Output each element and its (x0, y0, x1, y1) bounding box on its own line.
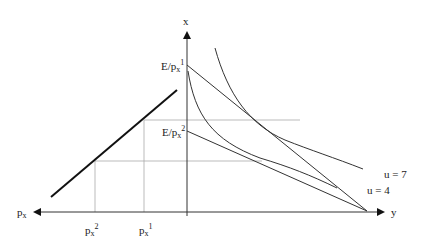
budget-lines (187, 65, 367, 211)
intercept-label-e2: E/px2 (162, 124, 185, 140)
demand-curve (51, 90, 177, 197)
axes (40, 38, 378, 216)
price-axis-label: px (17, 206, 27, 220)
indifference-label-u4: u = 4 (367, 184, 390, 196)
indifference-label-u7: u = 7 (384, 168, 407, 180)
price-tick-p2: px2 (85, 222, 99, 238)
indifference-curves (188, 48, 363, 188)
indifference-curve-u7 (215, 48, 363, 169)
diagram-canvas (0, 0, 421, 245)
price-tick-p1: px1 (139, 222, 153, 238)
intercept-label-e1: E/px1 (161, 58, 184, 74)
vertical-axis-label: x (183, 15, 189, 27)
arrow-left-icon (33, 208, 41, 216)
arrow-up-icon (183, 31, 191, 39)
indifference-curve-u4 (188, 71, 337, 188)
arrow-right-icon (377, 208, 385, 216)
horizontal-axis-label: y (391, 206, 397, 218)
demand-derivation-diagram: x y px E/px1 E/px2 px2 px1 u = 7 u = 4 (0, 0, 421, 245)
